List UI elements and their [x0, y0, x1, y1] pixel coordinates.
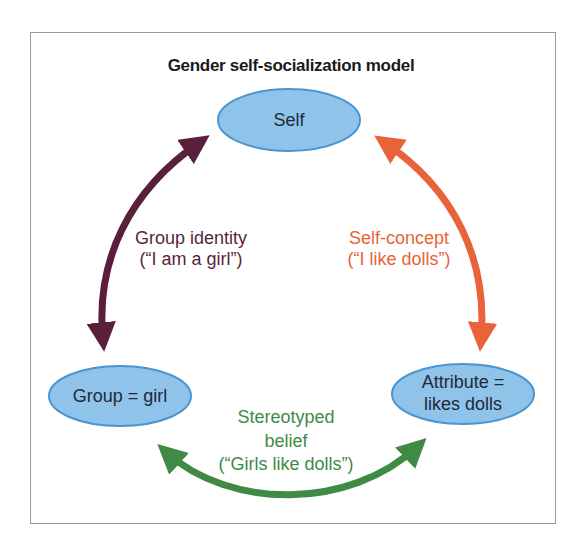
node-attribute-label-line1: Attribute = [422, 372, 505, 392]
group-identity-label: Group identity (“I am a girl”) [135, 228, 247, 269]
diagram-canvas: Gender self-socialization model Self Gro… [0, 0, 570, 545]
node-attribute-label-line2: likes dolls [424, 394, 502, 414]
node-group-label: Group = girl [73, 386, 168, 406]
group-identity-label-line2: (“I am a girl”) [140, 249, 243, 269]
group-identity-label-line1: Group identity [135, 228, 247, 248]
self-concept-label: Self-concept (“I like dolls”) [347, 228, 450, 269]
stereotyped-belief-label-line3: (“Girls like dolls”) [219, 454, 354, 474]
node-group: Group = girl [49, 366, 191, 426]
stereotyped-belief-label: Stereotyped belief (“Girls like dolls”) [219, 407, 354, 474]
stereotyped-belief-label-line1: Stereotyped [237, 407, 334, 427]
stereotyped-belief-label-line2: belief [264, 431, 308, 451]
node-attribute: Attribute = likes dolls [392, 364, 534, 424]
node-self: Self [218, 89, 360, 151]
self-concept-label-line1: Self-concept [349, 228, 449, 248]
node-self-label: Self [273, 110, 305, 130]
diagram-title: Gender self-socialization model [168, 56, 415, 75]
self-concept-label-line2: (“I like dolls”) [347, 249, 450, 269]
